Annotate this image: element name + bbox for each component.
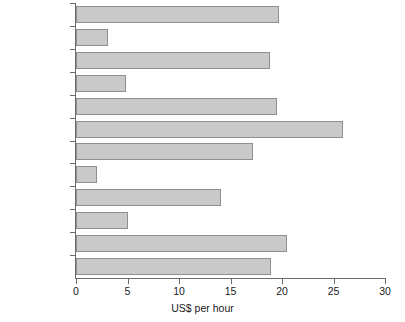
x-axis-tick-label: 30: [379, 286, 391, 297]
bar-row: Germany: [76, 121, 385, 138]
y-axis-tick: [70, 163, 75, 164]
x-axis-tick: [334, 279, 335, 284]
x-axis-tick-label: 0: [73, 286, 79, 297]
y-axis-line: [75, 3, 76, 279]
x-axis-tick: [231, 279, 232, 284]
bar: [76, 189, 221, 206]
x-axis-tick-label: 25: [328, 286, 340, 297]
bar-row: US: [76, 258, 385, 275]
bar: [76, 166, 97, 183]
y-axis-tick: [70, 72, 75, 73]
bar: [76, 258, 271, 275]
x-axis-title: US$ per hour: [0, 303, 405, 314]
y-axis-tick: [70, 118, 75, 119]
y-axis-tick: [70, 232, 75, 233]
bar-row: Japan: [76, 143, 385, 160]
bar-row: UK: [76, 235, 385, 252]
bar-row: France: [76, 98, 385, 115]
bar-chart: AustraliaBrazilCanadaCzech RepublicFranc…: [0, 0, 405, 322]
x-axis-tick-label: 5: [125, 286, 131, 297]
bar: [76, 212, 128, 229]
x-axis-tick: [385, 279, 386, 284]
bar-row: Brazil: [76, 29, 385, 46]
y-axis-tick: [70, 26, 75, 27]
bar-row: Taiwan: [76, 212, 385, 229]
y-axis-tick: [70, 209, 75, 210]
bar: [76, 143, 253, 160]
bar: [76, 52, 270, 69]
bar: [76, 235, 287, 252]
y-axis-tick: [70, 49, 75, 50]
bar: [76, 121, 343, 138]
bar: [76, 75, 126, 92]
y-axis-tick: [70, 141, 75, 142]
y-axis-tick: [70, 186, 75, 187]
y-axis-tick: [70, 255, 75, 256]
x-axis-tick: [282, 279, 283, 284]
bar-row: Spain: [76, 189, 385, 206]
bar: [76, 98, 277, 115]
bar-row: Canada: [76, 52, 385, 69]
bar-row: Czech Republic: [76, 75, 385, 92]
x-axis-tick-label: 15: [225, 286, 237, 297]
bar: [76, 29, 108, 46]
bar-row: Mexico: [76, 166, 385, 183]
bar-row: Australia: [76, 6, 385, 23]
x-axis-tick-label: 10: [173, 286, 185, 297]
plot-area: AustraliaBrazilCanadaCzech RepublicFranc…: [76, 3, 385, 278]
bar: [76, 6, 279, 23]
x-axis-tick: [179, 279, 180, 284]
x-axis-tick: [76, 279, 77, 284]
y-axis-tick: [70, 3, 75, 4]
x-axis-tick: [128, 279, 129, 284]
x-axis-tick-label: 20: [276, 286, 288, 297]
y-axis-tick: [70, 95, 75, 96]
